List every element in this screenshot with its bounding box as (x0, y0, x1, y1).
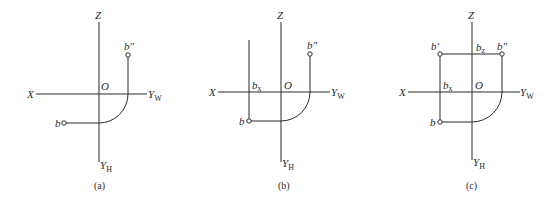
label-yh: YH (282, 157, 294, 172)
panel-c: Z X O bx bz YW YH b b′ b″ (c) (398, 9, 534, 192)
transfer-arc (281, 92, 310, 121)
label-bz: bz (476, 41, 486, 55)
label-yw: YW (520, 86, 534, 101)
label-yw: YW (148, 88, 162, 103)
point-b2 (308, 52, 312, 56)
transfer-arc (99, 94, 128, 123)
point-b2 (500, 52, 504, 56)
projection-diagram: Z X O YW YH b b″ (a) Z X O bx YW YH b b″… (0, 0, 548, 203)
label-yh: YH (100, 159, 112, 174)
label-x: X (208, 86, 217, 98)
label-z: Z (95, 9, 102, 21)
point-b (247, 119, 251, 123)
panel-b: Z X O bx YW YH b b″ (b) (208, 9, 345, 192)
point-b2 (126, 53, 130, 57)
label-z: Z (468, 9, 475, 21)
label-b1: b′ (431, 40, 440, 52)
label-b: b (430, 116, 436, 128)
point-b (62, 121, 66, 125)
caption-c: (c) (466, 180, 477, 192)
label-z: Z (277, 9, 284, 21)
caption-a: (a) (94, 180, 105, 192)
label-b2: b″ (497, 40, 508, 52)
label-b: b (55, 117, 61, 129)
point-b1 (438, 52, 442, 56)
label-yw: YW (331, 86, 345, 101)
label-b2: b″ (307, 39, 318, 51)
label-x: X (26, 88, 35, 100)
label-o: O (284, 79, 292, 91)
transfer-arc (472, 92, 502, 122)
point-b (438, 120, 442, 124)
label-bx: bx (443, 79, 453, 93)
label-bx: bx (252, 79, 262, 93)
label-b2: b″ (124, 40, 135, 52)
label-b: b (239, 115, 245, 127)
label-o: O (101, 80, 109, 92)
panel-a: Z X O YW YH b b″ (a) (26, 9, 162, 192)
label-x: X (398, 86, 407, 98)
caption-b: (b) (278, 180, 290, 192)
label-o: O (475, 79, 483, 91)
label-yh: YH (473, 156, 485, 171)
